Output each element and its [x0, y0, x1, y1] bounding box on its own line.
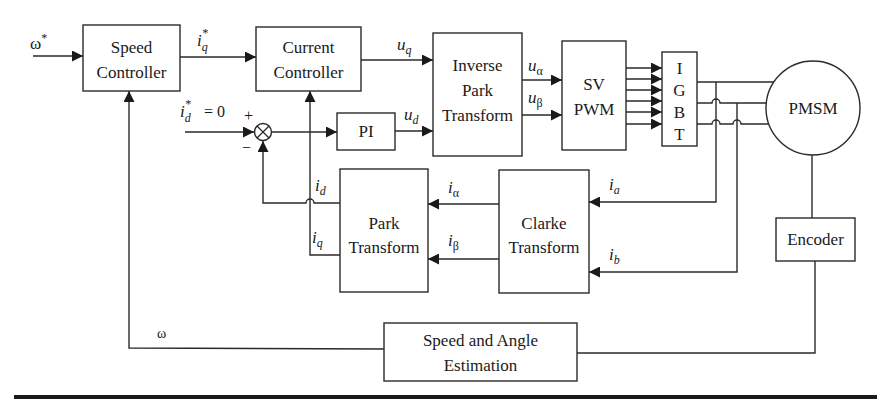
signal-u-alpha: uα [528, 56, 544, 78]
wire-encoder-estimator [577, 261, 815, 353]
sum-minus-sign: − [242, 139, 251, 156]
clarke-block: Clarke Transform [499, 170, 589, 293]
inverse-park-label-2: Park [462, 81, 494, 100]
pmsm-motor: PMSM [766, 61, 860, 155]
wire-id-feedback [263, 141, 340, 203]
igbt-letter-i: I [677, 59, 683, 78]
inverse-park-label-1: Inverse [452, 56, 502, 75]
igbt-letter-t: T [674, 125, 685, 144]
signal-iq-ref: iq* [197, 26, 208, 54]
signal-i-beta: iβ [448, 231, 459, 253]
speed-controller-block: Speed Controller [83, 25, 180, 91]
current-controller-label-1: Current [283, 38, 335, 57]
igbt-letter-b: B [674, 103, 685, 122]
encoder-block: Encoder [776, 218, 855, 261]
encoder-label: Encoder [787, 230, 844, 249]
sum-plus-sign: + [244, 107, 253, 124]
signal-omega-ref: ω* [30, 31, 47, 53]
current-controller-label-2: Controller [274, 63, 344, 82]
speed-controller-label-1: Speed [111, 38, 153, 57]
svpwm-label-2: PWM [574, 100, 615, 119]
speed-angle-label-1: Speed and Angle [423, 331, 538, 350]
park-label-2: Transform [348, 238, 419, 257]
speed-angle-estimation-block: Speed and Angle Estimation [384, 323, 577, 381]
wire-phase-c [697, 120, 775, 124]
signal-iq: iq [312, 228, 323, 250]
park-block: Park Transform [340, 169, 428, 292]
signal-ud: ud [404, 105, 420, 127]
svpwm-block: SV PWM [562, 41, 626, 150]
signal-id: id [315, 176, 327, 198]
signal-id-ref-value: = 0 [204, 103, 225, 120]
signal-i-alpha: iα [448, 178, 460, 200]
speed-angle-label-2: Estimation [444, 356, 518, 375]
signal-ib: ib [609, 245, 620, 267]
speed-controller-label-2: Controller [97, 63, 167, 82]
signal-u-beta: uβ [528, 88, 543, 110]
signal-uq: uq [397, 35, 412, 57]
svpwm-label-1: SV [583, 75, 605, 94]
pi-block: PI [337, 113, 395, 150]
bottom-rule [14, 395, 877, 399]
signal-id-ref: id* [180, 97, 192, 125]
igbt-block: I G B T [662, 52, 697, 146]
signal-ia: ia [609, 175, 620, 197]
foc-block-diagram: Speed Controller Current Controller PI I… [0, 0, 887, 412]
clarke-label-1: Clarke [521, 214, 566, 233]
inverse-park-block: Inverse Park Transform [433, 33, 522, 156]
inverse-park-label-3: Transform [442, 106, 513, 125]
pmsm-label: PMSM [788, 99, 837, 118]
current-controller-block: Current Controller [256, 27, 361, 91]
igbt-letter-g: G [673, 81, 685, 100]
park-label-1: Park [368, 214, 400, 233]
signal-omega-feedback: ω [157, 326, 166, 341]
pi-label: PI [358, 122, 373, 141]
clarke-label-2: Transform [508, 238, 579, 257]
wire-phase-b [697, 99, 766, 103]
